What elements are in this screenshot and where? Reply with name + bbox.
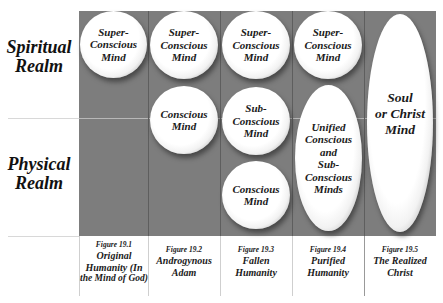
column-divider-4 bbox=[364, 11, 365, 236]
column-divider-3 bbox=[292, 11, 293, 236]
orb-label: Soulor ChristMind bbox=[375, 90, 425, 138]
physical-realm-label: Physical Realm bbox=[0, 155, 78, 193]
orb-label: Super-ConsciousMind bbox=[90, 26, 137, 64]
realm-divider-left bbox=[8, 118, 79, 119]
caption-figure-19-5: Figure 19.5 The Realized Christ bbox=[364, 245, 436, 278]
super-conscious-mind-orb: Super-ConsciousMind bbox=[80, 11, 147, 78]
figure-number: Figure 19.2 bbox=[148, 245, 220, 255]
conscious-mind-orb: ConsciousMind bbox=[222, 161, 290, 229]
orb-label: Super-ConsciousMind bbox=[304, 26, 351, 64]
super-conscious-mind-orb: Super-ConsciousMind bbox=[150, 11, 218, 79]
spiritual-label-line1: Spiritual bbox=[0, 38, 78, 57]
caption-figure-19-3: Figure 19.3 Fallen Humanity bbox=[220, 245, 292, 278]
figure-title: Humanity (In bbox=[79, 262, 149, 274]
physical-label-line2: Realm bbox=[0, 174, 78, 193]
figure-title: Adam bbox=[148, 267, 220, 279]
figure-title: Fallen bbox=[220, 255, 292, 267]
orb-label: Sub-ConsciousMind bbox=[232, 102, 279, 140]
super-conscious-mind-orb: Super-ConsciousMind bbox=[222, 11, 290, 79]
column-divider-1 bbox=[148, 11, 149, 236]
figure-title: The Realized bbox=[364, 255, 436, 267]
figure-title: Original bbox=[79, 250, 149, 262]
soul-christ-mind-ellipse: Soulor ChristMind bbox=[367, 14, 433, 232]
caption-figure-19-2: Figure 19.2 Androgynous Adam bbox=[148, 245, 220, 278]
figure-title: Humanity bbox=[220, 267, 292, 279]
sub-conscious-mind-orb: Sub-ConsciousMind bbox=[222, 87, 290, 155]
figure-number: Figure 19.3 bbox=[220, 245, 292, 255]
figure-title: Androgynous bbox=[148, 255, 220, 267]
orb-label: Super-ConsciousMind bbox=[232, 26, 279, 64]
figure-title: the Mind of God) bbox=[79, 273, 149, 285]
unified-minds-ellipse: UnifiedConsciousandSub-ConsciousMinds bbox=[295, 85, 362, 231]
figure-title: Humanity bbox=[292, 267, 364, 279]
spiritual-realm-label: Spiritual Realm bbox=[0, 38, 78, 76]
caption-divider-left bbox=[8, 236, 79, 237]
caption-figure-19-1: Figure 19.1 Original Humanity (In the Mi… bbox=[79, 240, 149, 285]
conscious-mind-orb: ConsciousMind bbox=[150, 86, 218, 154]
orb-label: ConsciousMind bbox=[232, 183, 279, 208]
orb-label: ConsciousMind bbox=[160, 108, 207, 133]
super-conscious-mind-orb: Super-ConsciousMind bbox=[294, 11, 362, 79]
column-divider-2 bbox=[220, 11, 221, 236]
orb-label: UnifiedConsciousandSub-ConsciousMinds bbox=[305, 121, 352, 196]
physical-label-line1: Physical bbox=[0, 155, 78, 174]
caption-figure-19-4: Figure 19.4 Purified Humanity bbox=[292, 245, 364, 278]
figure-number: Figure 19.1 bbox=[79, 240, 149, 250]
figure-title: Purified bbox=[292, 255, 364, 267]
figure-number: Figure 19.4 bbox=[292, 245, 364, 255]
figure-number: Figure 19.5 bbox=[364, 245, 436, 255]
figure-title: Christ bbox=[364, 267, 436, 279]
orb-label: Super-ConsciousMind bbox=[160, 26, 207, 64]
spiritual-label-line2: Realm bbox=[0, 57, 78, 76]
